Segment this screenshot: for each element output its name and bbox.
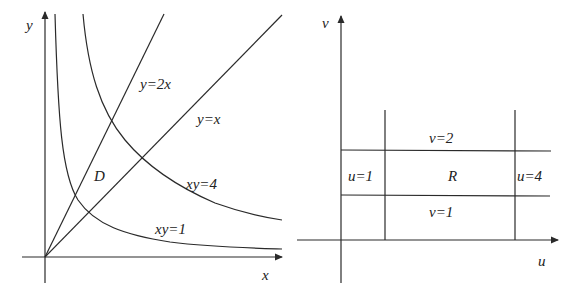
diagram-canvas: y x y=2x y=x D xy=4 xy=1 v u v=2 u=1 R u… xyxy=(0,0,562,301)
region-r-label: R xyxy=(447,168,457,184)
left-panel-xy-plane xyxy=(22,12,282,283)
label-v-1: v=1 xyxy=(429,204,453,220)
label-u-4: u=4 xyxy=(517,168,543,184)
label-u-1: u=1 xyxy=(348,168,373,184)
right-panel-uv-plane xyxy=(297,16,558,283)
region-d-label: D xyxy=(93,168,105,184)
label-xy-1: xy=1 xyxy=(154,221,186,237)
u-axis-label: u xyxy=(538,253,546,269)
label-xy-4: xy=4 xyxy=(185,176,217,192)
label-v-2: v=2 xyxy=(429,130,454,146)
right-panel-labels: v u v=2 u=1 R u=4 v=1 xyxy=(322,15,546,269)
label-y-x: y=x xyxy=(195,111,221,127)
x-axis-label: x xyxy=(261,267,269,283)
v-axis-label: v xyxy=(322,15,329,31)
left-panel-labels: y x y=2x y=x D xy=4 xy=1 xyxy=(24,17,269,283)
y-axis-label: y xyxy=(24,17,33,33)
label-y-2x: y=2x xyxy=(138,76,171,92)
line-v-2 xyxy=(341,150,551,151)
line-v-1 xyxy=(341,195,550,196)
line-y-2x xyxy=(45,14,164,257)
